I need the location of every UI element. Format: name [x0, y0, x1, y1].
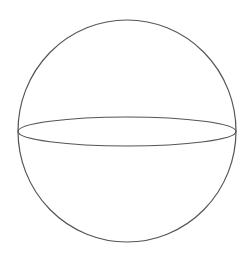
sphere-equator-ellipse — [18, 117, 236, 146]
sphere-figure — [0, 0, 250, 261]
sphere-outline-circle — [18, 20, 236, 242]
sphere-diagram — [0, 0, 250, 261]
